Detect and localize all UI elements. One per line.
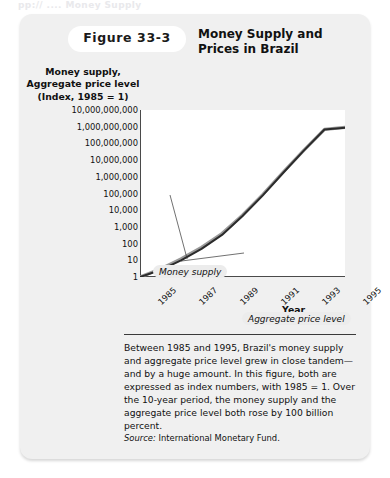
- y-tick-label: 100,000: [20, 189, 138, 199]
- y-axis-title: Money supply,Aggregate price level(Index…: [22, 66, 144, 103]
- figure-card: Figure 33-3 Money Supply and Prices in B…: [20, 14, 370, 459]
- y-tick-label: 100,000,000: [20, 138, 138, 148]
- x-tick-label: 1987: [197, 285, 219, 307]
- annotation-money-supply: Money supply: [153, 265, 227, 278]
- x-tick-label: 1995: [361, 285, 383, 307]
- annotation-aggregate-price-level: Aggregate price level: [242, 312, 351, 325]
- plot-canvas: [140, 110, 345, 277]
- y-tick-label: 10,000,000: [20, 155, 138, 165]
- y-tick-label: 10: [20, 255, 138, 265]
- series-line-money-supply: [140, 127, 345, 277]
- caption-body: Between 1985 and 1995, Brazil's money su…: [124, 341, 356, 432]
- source-text: International Monetary Fund.: [158, 433, 279, 443]
- x-tick-label: 1989: [238, 285, 260, 307]
- series-line-aggregate-price-level: [140, 128, 345, 277]
- figure-number-label: Figure 33-3: [68, 30, 186, 45]
- cropped-page-text: pp:// .... Money Supply: [18, 0, 378, 12]
- source-word: Source:: [124, 433, 156, 443]
- figure-header: Figure 33-3 Money Supply and Prices in B…: [20, 22, 370, 64]
- caption-divider: [124, 334, 356, 335]
- x-tick-label: 1985: [156, 285, 178, 307]
- y-axis-tick-labels: 10,000,000,0001,000,000,000100,000,00010…: [20, 110, 138, 277]
- y-tick-label: 1,000: [20, 222, 138, 232]
- y-tick-label: 100: [20, 239, 138, 249]
- y-tick-label: 10,000,000,000: [20, 105, 138, 115]
- y-tick-label: 1,000,000: [20, 172, 138, 182]
- figure-title: Money Supply and Prices in Brazil: [198, 27, 363, 58]
- y-tick-label: 10,000: [20, 205, 138, 215]
- caption-source: Source: International Monetary Fund.: [124, 433, 356, 445]
- chart-area: Money supply,Aggregate price level(Index…: [20, 66, 370, 328]
- figure-caption: Between 1985 and 1995, Brazil's money su…: [124, 334, 356, 445]
- y-tick-label: 1,000,000,000: [20, 122, 138, 132]
- chart-plot-svg: [140, 110, 345, 277]
